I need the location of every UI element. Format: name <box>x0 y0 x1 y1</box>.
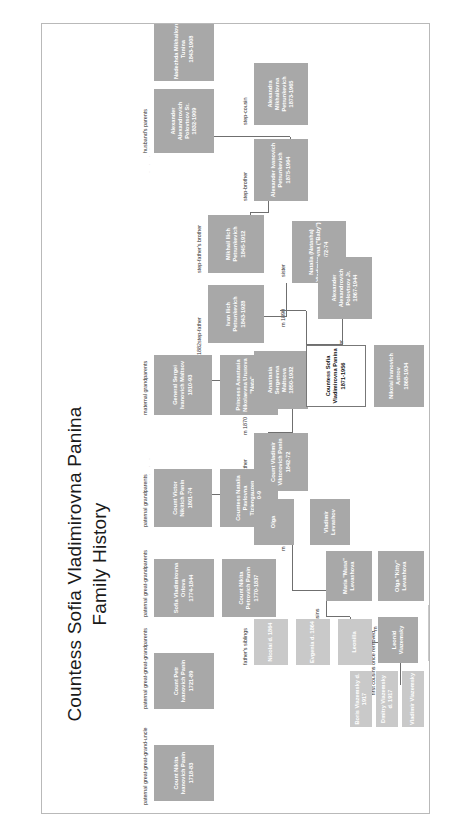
family-tree-canvas: Countess Sofia Vladimirovna Panina Famil… <box>42 24 429 813</box>
person-name: Nadezhda MikhailovnaTunina <box>173 23 187 79</box>
person-name: Countess NataliaPavlovna Tiziengauzen <box>235 470 257 526</box>
person-name: Ivan IlichPetrunkevich <box>225 296 239 331</box>
person-years: 1867-1944 <box>352 275 359 302</box>
caption-paternal-gg-grand-uncle: paternal great-great-grand-uncle <box>142 727 148 805</box>
person-box-dmitry-viazemsky[interactable]: Dmitry Viazemsky d. 1917 <box>376 671 398 727</box>
person-years: 1832-1909 <box>191 108 198 135</box>
person-box-leonilla-panina[interactable]: Leonilla <box>338 619 372 665</box>
person-name: Mikhail IlichPetrunkevich <box>225 226 239 261</box>
person-box-vladimir-levashov[interactable]: Vladimir Levashov <box>310 499 350 545</box>
connector <box>280 310 306 311</box>
caption-husbands-parents: husband's parents <box>142 109 148 153</box>
person-box-evgenia-panina[interactable]: Evgenia d. 1864 <box>296 619 330 665</box>
person-name: Olga "Kitty"Levashova <box>394 560 408 592</box>
person-years: 1871-1956 <box>340 363 347 390</box>
person-box-victor-nikitich-panin[interactable]: Count VictorNikitich Panin 1801-74 <box>154 469 212 527</box>
person-years: 1810-93 <box>187 375 194 396</box>
title-line-1: Countess Sofia Vladimirovna Panina <box>62 349 87 779</box>
marriage-1870-label: m 1870 <box>242 417 248 435</box>
person-box-alexander-petrunkevich[interactable]: Alexander IvanovichPetrunkevich 1875-196… <box>254 139 308 201</box>
person-box-nikita-petrovich-panin[interactable]: Count NikitaPetrovich Panin 1770-1837 <box>222 559 276 617</box>
person-box-petr-ivanovich-panin[interactable]: Count PetrIvanovich Panin 1721-89 <box>154 653 214 709</box>
connector <box>306 311 307 345</box>
person-box-nikolai-astrov-partner[interactable]: Nikolai IvanovichAstrov 1868-1934 <box>374 345 424 407</box>
person-box-alexandra-petrunkevich[interactable]: Alexandra MikhailovnaPetrunkevich 1873-1… <box>254 63 308 125</box>
person-name: Olga <box>270 516 277 528</box>
person-box-polovtsov-sr[interactable]: Alexander AlexandrovichPolovtsov Sr. 183… <box>154 89 214 153</box>
person-years: 1842-72 <box>285 452 292 473</box>
person-years: 1843-1908 <box>188 36 195 63</box>
title-line-2: Family History <box>87 349 112 779</box>
connector <box>342 319 343 345</box>
connector <box>292 545 293 591</box>
person-years: 1873-1965 <box>288 81 295 108</box>
connector <box>286 283 287 317</box>
person-name: Count VictorNikitich Panin <box>172 480 186 517</box>
person-years: 1774-1844 <box>188 575 195 602</box>
person-box-sofia-vladimirovna-orlova[interactable]: Sofia VladimirovnaOrlova 1774-1844 <box>154 559 214 617</box>
person-name: Alexander IvanovichPetrunkevich <box>270 143 284 197</box>
person-years: 1845-1912 <box>240 231 247 258</box>
person-box-nadezhda-tunina[interactable]: Nadezhda MikhailovnaTunina 1843-1908 <box>154 23 214 81</box>
person-name: Dmitry Viazemsky d. 1917 <box>380 672 394 726</box>
person-years: 1875-1964 <box>285 157 292 184</box>
caption-paternal-great-grandparents: paternal great-grandparents <box>142 550 148 617</box>
person-years: 1843-1928 <box>240 301 247 328</box>
person-name: Nicolai d. 1864 <box>267 623 274 662</box>
person-years: 1850-1932 <box>288 367 295 394</box>
person-box-sergei-maltsov[interactable]: General SergeiIvanovich Maltsov 1810-93 <box>154 355 212 415</box>
caption-stepbrother: step-brother <box>242 172 248 201</box>
person-name: Leonilla <box>351 631 358 652</box>
person-name: Countess SofiaVladimirovna Panina <box>325 348 339 403</box>
person-name: Count NikitaPetrovich Panin <box>238 567 252 609</box>
person-name: Princess AnastasiaNikolaevna Urusova "Na… <box>235 356 257 414</box>
person-box-vladimir-viazemsky[interactable]: Vladimir Viazemsky <box>402 671 424 727</box>
person-box-lidia-viazemskaya[interactable]: Lidia Viazishkova1886-1948 <box>428 605 430 661</box>
person-years: 1718-83 <box>188 763 195 784</box>
person-box-ivan-petrunkevich[interactable]: Ivan IlichPetrunkevich 1843-1928 <box>208 285 264 343</box>
caption-stepcousin: step-cousin <box>242 97 248 125</box>
person-name: Count NikitaIvanovich Panin <box>173 752 187 795</box>
person-years: 1868-1934 <box>403 363 410 390</box>
person-box-maria-musa-levashova[interactable]: Maria "Musa"Levashova <box>326 551 372 601</box>
person-name: Vladimir Viazemsky <box>409 673 416 725</box>
caption-paternal-gg-grandfather: paternal great-great-grandparents <box>142 628 148 709</box>
person-name: Evgenia d. 1864 <box>309 621 316 663</box>
connector <box>250 212 268 213</box>
person-box-mikhail-petrunkevich[interactable]: Mikhail IlichPetrunkevich 1845-1912 <box>208 215 264 273</box>
page-sheet: Countess Sofia Vladimirovna Panina Famil… <box>41 23 430 814</box>
person-name: Nikolai IvanovichAstrov <box>388 353 402 399</box>
person-box-olga-kitty-levashova[interactable]: Olga "Kitty"Levashova <box>378 551 424 601</box>
person-years: 1721-89 <box>188 671 195 692</box>
caption-maternal-grandparents: maternal grandparents <box>142 361 148 415</box>
person-box-anastasia-maltsova[interactable]: Anastasia SergeevnaMaltsova 1850-1932 <box>254 351 308 409</box>
connector <box>292 590 326 591</box>
person-years: 1770-1837 <box>253 575 260 602</box>
person-name: Vladimir Levashov <box>323 500 337 544</box>
caption-stepfathers-brother: step-father's brother <box>196 225 202 273</box>
person-name: LeonidViazemsky <box>391 626 405 655</box>
caption-stepfather: step-father <box>196 317 202 343</box>
person-box-polovtsov-jr-husband[interactable]: Alexander AlexandrovichPolovtsov Jr. 186… <box>318 257 372 319</box>
person-name: Maria "Musa"Levashova <box>342 558 356 594</box>
person-box-nikita-ivanovich-panin[interactable]: Count NikitaIvanovich Panin 1718-83 <box>154 745 214 801</box>
person-name: Alexander AlexandrovichPolovtsov Sr. <box>170 90 192 152</box>
caption-fathers-siblings: father's siblings <box>242 628 248 665</box>
person-name: Sofia VladimirovnaOrlova <box>173 563 187 613</box>
person-name: Alexander AlexandrovichPolovtsov Jr. <box>331 258 353 318</box>
person-name: Count VladimirViktorovich Panin <box>270 438 284 485</box>
person-box-sofia-panina-subject[interactable]: Countess SofiaVladimirovna Panina 1871-1… <box>306 345 366 407</box>
person-name: Anastasia SergeevnaMaltsova <box>267 352 289 408</box>
person-name: General SergeiIvanovich Maltsov <box>172 361 186 409</box>
person-name: Boris Viazemsky d. 1917 <box>354 672 368 726</box>
person-box-nikolai-panin[interactable]: Nicolai d. 1864 <box>254 619 288 665</box>
person-years: 1801-74 <box>187 488 194 509</box>
person-box-olga-panina[interactable]: Olga <box>254 499 294 545</box>
connector <box>326 616 350 617</box>
page-title: Countess Sofia Vladimirovna Panina Famil… <box>62 349 112 779</box>
person-name: Count PetrIvanovich Panin <box>173 660 187 703</box>
caption-sister: sister <box>280 264 286 277</box>
person-box-vladimir-panin[interactable]: Count VladimirViktorovich Panin 1842-72 <box>254 433 308 491</box>
person-box-boris-viazemsky[interactable]: Boris Viazemsky d. 1917 <box>350 671 372 727</box>
person-box-leonid-viazemsky[interactable]: LeonidViazemsky <box>378 617 418 663</box>
